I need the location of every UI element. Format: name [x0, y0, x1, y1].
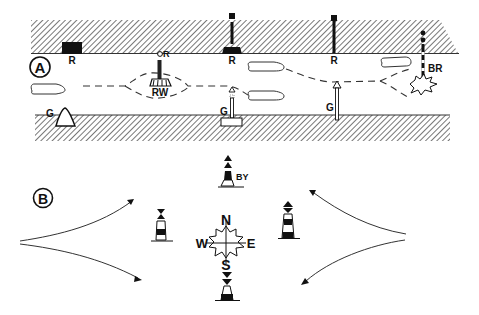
- east-cardinal-mark: [278, 201, 300, 239]
- svg-text:N: N: [221, 212, 231, 228]
- svg-text:G: G: [220, 106, 228, 117]
- route-arrow: [314, 193, 406, 234]
- svg-text:S: S: [221, 257, 230, 273]
- route-arrow: [20, 201, 132, 241]
- svg-text:E: E: [247, 236, 256, 251]
- svg-text:A: A: [35, 59, 46, 76]
- panel-a-label: A: [30, 57, 50, 77]
- route-arrow: [20, 244, 138, 278]
- green-pile-post: G: [326, 81, 341, 120]
- channel-route: [380, 81, 408, 97]
- channel-route: [286, 69, 410, 82]
- boat-icon: [248, 91, 284, 100]
- svg-text:R: R: [163, 49, 170, 59]
- red-square-beacon: R: [62, 42, 82, 66]
- svg-text:W: W: [196, 236, 209, 251]
- panel-b-label: B: [34, 189, 53, 208]
- west-cardinal-mark: [151, 209, 173, 241]
- panel-a: A R R RW R R: [30, 13, 459, 141]
- compass-rose: N S W E: [196, 212, 256, 273]
- arrowhead-icon: [309, 190, 316, 196]
- svg-text:BR: BR: [428, 63, 443, 74]
- panel-b: B BY: [20, 155, 406, 301]
- route-arrow: [306, 240, 405, 281]
- boat-icon: [31, 84, 65, 94]
- svg-text:R: R: [228, 55, 236, 66]
- svg-text:BY: BY: [236, 172, 249, 182]
- svg-text:RW: RW: [152, 87, 169, 98]
- south-cardinal-mark: [215, 272, 240, 301]
- boat-icon: [248, 62, 284, 71]
- top-bank: [31, 20, 458, 53]
- boat-icon: [381, 57, 411, 67]
- north-cardinal-mark: BY: [218, 155, 249, 187]
- svg-text:R: R: [330, 55, 338, 66]
- arrowhead-icon: [134, 276, 142, 282]
- svg-text:G: G: [326, 102, 334, 113]
- svg-text:B: B: [38, 191, 48, 207]
- safe-water-mark: R RW: [150, 49, 171, 98]
- green-light-beacon: G: [220, 87, 242, 126]
- buoyage-diagram: A R R RW R R: [0, 0, 479, 315]
- rock-icon: [410, 74, 437, 95]
- svg-text:R: R: [68, 55, 76, 66]
- svg-text:G: G: [46, 108, 54, 119]
